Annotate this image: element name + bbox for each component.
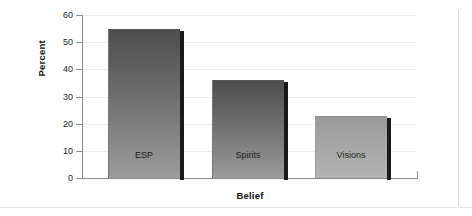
bar-shadow (387, 118, 391, 180)
bar-visions[interactable] (315, 116, 387, 178)
y-axis-tick-label: 0 (51, 174, 73, 183)
y-axis-tick-label: 50 (51, 38, 73, 47)
y-axis-tick-label: 30 (51, 93, 73, 102)
x-axis-end-tick (417, 171, 418, 179)
x-axis-title: Belief (82, 190, 418, 201)
bar-category-label: Spirits (212, 150, 284, 160)
chart-figure: 0102030405060 ESPSpiritsVisions Percent … (0, 0, 472, 216)
y-axis-tick-label: 20 (51, 120, 73, 129)
bar-shadow (180, 31, 184, 180)
figure-right-border (458, 10, 459, 206)
y-axis-tick-label: 60 (51, 11, 73, 20)
figure-bottom-border (0, 207, 472, 208)
x-axis-line (82, 178, 418, 179)
gridline (83, 15, 417, 16)
y-axis-tick-label: 10 (51, 147, 73, 156)
y-axis-title: Percent (36, 63, 47, 77)
bar-category-label: ESP (108, 150, 180, 160)
y-axis-tick-label: 40 (51, 65, 73, 74)
bar-spirits[interactable] (212, 80, 284, 178)
bar-shadow (284, 82, 288, 180)
bar-category-label: Visions (315, 150, 387, 160)
y-axis-line (82, 15, 83, 179)
